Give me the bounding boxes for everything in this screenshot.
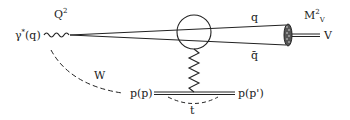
antiquark-label: q̄: [251, 50, 258, 61]
proton-in-label: p(p): [130, 88, 153, 99]
virtuality-label: Q2: [54, 8, 68, 20]
momentum-transfer-label: t: [190, 105, 194, 116]
t-dashed-arc: [168, 97, 218, 104]
meson-blob: [284, 24, 292, 46]
photon-wavy-line: [44, 33, 69, 37]
energy-label: W: [94, 70, 105, 81]
quark-label: q: [251, 12, 258, 23]
feynman-diagram: [0, 0, 350, 120]
meson-label: V: [324, 30, 332, 41]
proton-out-label: p(p'): [238, 88, 264, 99]
meson-mass-label: M2V: [304, 9, 325, 24]
pomeron-zigzag: [189, 49, 199, 92]
gluon-loop-circle: [177, 15, 211, 49]
w-dashed-arc: [51, 50, 122, 93]
photon-label: γ*(q): [15, 29, 41, 41]
